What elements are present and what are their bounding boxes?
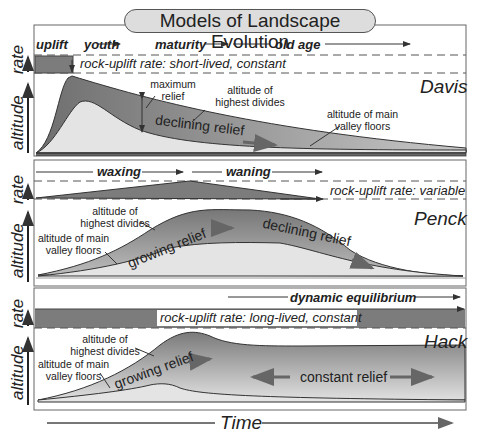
penck-valley-label: altitude of main valley floors — [36, 232, 111, 256]
penck-rate-label: rock-uplift rate: variable — [330, 183, 465, 198]
phase-maturity: maturity — [155, 37, 206, 52]
model-hack: Hack — [424, 331, 467, 353]
davis-rate-axis: rate — [8, 45, 28, 74]
model-davis: Davis — [420, 76, 468, 98]
model-penck: Penck — [414, 208, 467, 230]
hack-constant-label: constant relief — [300, 369, 387, 385]
hack-divides-label: altitude of highest divides — [70, 333, 140, 357]
phase-uplift: uplift — [36, 37, 68, 52]
phase-youth: youth — [84, 37, 119, 52]
phase-waning: waning — [226, 164, 271, 179]
penck-rate-triangle — [36, 181, 320, 199]
penck-rate-axis: rate — [8, 175, 28, 204]
davis-valley-label: altitude of main valley floors — [325, 108, 400, 132]
phase-old-age: old age — [275, 37, 321, 52]
phase-waxing: waxing — [97, 164, 141, 179]
hack-valley-label: altitude of main valley floors — [36, 358, 111, 382]
time-axis-label: Time — [220, 412, 262, 434]
penck-altitude-axis: altitude — [8, 223, 28, 278]
davis-uplift-bar — [35, 56, 73, 73]
penck-divides-label: altitude of highest divides — [80, 205, 150, 229]
hack-altitude-axis: altitude — [8, 345, 28, 400]
davis-divides-label: altitude of highest divides — [215, 84, 285, 108]
hack-rate-axis: rate — [8, 299, 28, 328]
phase-dynamic-equilibrium: dynamic equilibrium — [290, 290, 416, 305]
diagram-title: Models of Landscape Evolution — [124, 9, 376, 33]
davis-rate-label: rock-uplift rate: short-lived, constant — [80, 56, 286, 71]
davis-altitude-axis: altitude — [8, 95, 28, 150]
hack-rate-label: rock-uplift rate: long-lived, constant — [160, 310, 362, 325]
max-relief-label: maximum relief — [148, 78, 198, 102]
